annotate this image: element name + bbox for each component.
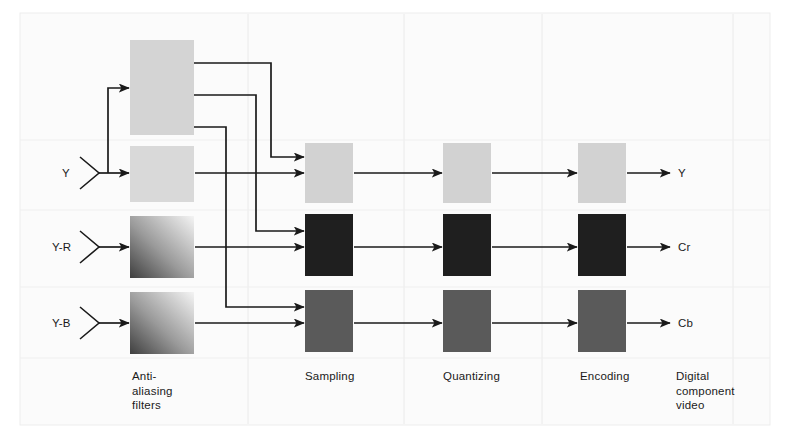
output-label-cr: Cr xyxy=(678,240,691,255)
sampling-block-cr xyxy=(305,214,353,276)
column-label-anti-aliasing-filters: Anti- aliasing filters xyxy=(132,369,173,413)
encoding-block-y xyxy=(578,143,626,203)
input-label-y: Y xyxy=(62,166,70,181)
diagram-canvas: Y Y-R Y-B Y Cr Cb Anti- aliasing filters… xyxy=(0,0,793,448)
input-label-y-r: Y-R xyxy=(52,240,71,255)
encoding-block-cr xyxy=(578,214,626,276)
diagram-vector-layer xyxy=(0,0,793,448)
input-label-y-b: Y-B xyxy=(52,316,71,331)
filter-block-cb xyxy=(130,292,194,354)
sampling-block-y xyxy=(305,143,353,203)
output-label-y: Y xyxy=(678,166,686,181)
encoding-block-cb xyxy=(578,290,626,352)
filter-block-cr xyxy=(130,216,194,278)
quantizing-block-cb xyxy=(443,290,491,352)
output-label-cb: Cb xyxy=(678,316,693,331)
sampling-block-cb xyxy=(305,290,353,352)
column-label-sampling: Sampling xyxy=(305,369,355,384)
column-label-encoding: Encoding xyxy=(580,369,630,384)
column-label-digital-component-video: Digital component video xyxy=(676,369,735,413)
filter-block-y-prefilter xyxy=(130,40,194,135)
column-label-quantizing: Quantizing xyxy=(443,369,500,384)
quantizing-block-y xyxy=(443,143,491,203)
quantizing-block-cr xyxy=(443,214,491,276)
filter-block-y xyxy=(130,146,194,202)
